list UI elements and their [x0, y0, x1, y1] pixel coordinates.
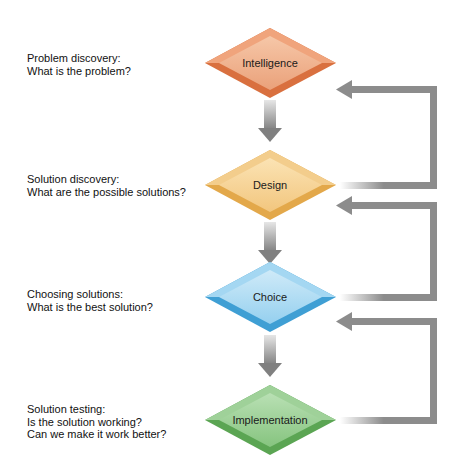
intelligence-node: Intelligence	[205, 28, 336, 98]
down-arrow-icon	[258, 335, 282, 377]
feedback-arrow-icon	[336, 80, 437, 189]
feedback-arrow-icon	[336, 196, 437, 301]
node-label: Choice	[253, 291, 287, 303]
feedback-arrow-icon	[336, 312, 437, 424]
node-label: Implementation	[232, 414, 307, 426]
decision-process-diagram: Intelligence Design Choice Implementatio…	[0, 0, 465, 464]
node-label: Intelligence	[242, 57, 298, 69]
design-node: Design	[205, 150, 336, 220]
down-arrow-icon	[258, 100, 282, 142]
down-arrow-icon	[258, 222, 282, 264]
choice-node: Choice	[205, 262, 336, 332]
node-label: Design	[253, 179, 287, 191]
implementation-node: Implementation	[205, 385, 336, 455]
